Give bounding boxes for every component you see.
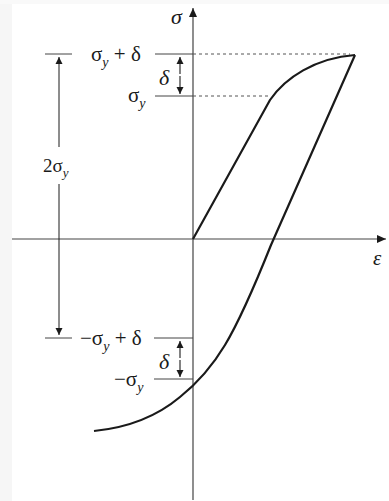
lower-yield-label-sub: y [135,380,144,395]
hysteresis-diagram: σ ε δ δ 2σy σy + δ σy −σy + [0,0,389,501]
upper-top-label-tail: + δ [109,42,141,66]
sigma-axis-label: σ [171,4,183,29]
upper-yield-label: σy [128,83,146,111]
lower-top-label-tail: + δ [109,326,141,350]
lower-top-label: −σy + δ [80,326,142,354]
epsilon-axis-label: ε [373,246,382,270]
upper-delta-label: δ [159,65,170,90]
upper-yield-label-main: σ [128,83,139,107]
span-label: 2σy [43,155,69,180]
upper-top-label: σy + δ [91,42,141,70]
upper-top-label-main: σ [91,42,102,66]
lower-top-label-prefix: −σ [80,326,103,350]
lower-yield-label: −σy [114,367,144,395]
upper-yield-label-sub: y [137,96,146,111]
lower-delta-label: δ [159,349,170,374]
lower-yield-label-prefix: −σ [114,367,137,391]
span-label-main: 2σ [43,155,63,176]
diagram-canvas: σ ε δ δ 2σy σy + δ σy −σy + [0,0,389,501]
loading-curve [193,55,355,239]
span-label-sub: y [61,165,69,180]
